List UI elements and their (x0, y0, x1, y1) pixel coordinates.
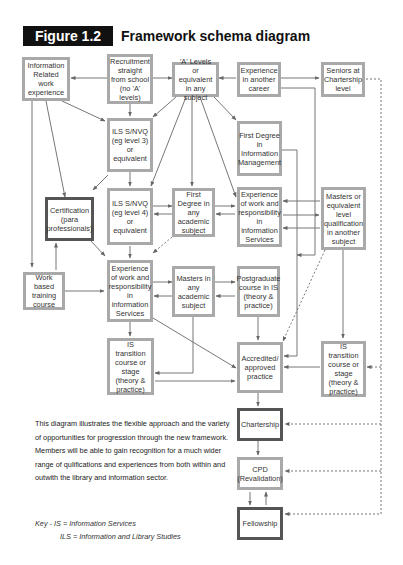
node-masters-any: Masters in any academic subject (172, 266, 215, 317)
node-experience-another-career: Experience in another career (237, 62, 281, 97)
node-info-related-work: Information Related work experience (22, 57, 70, 101)
node-a-levels: 'A' Levels or equivalent in any subject (172, 62, 219, 97)
node-chartership: Chartership (237, 408, 283, 441)
node-cpd-revalidation: CPD (Revalidation) (237, 457, 283, 490)
node-ils-level4: ILS S/NVQ (eg level 4) or equivalent (107, 188, 153, 245)
node-accredited-practice: Accredited/ approved practice (237, 342, 283, 393)
node-first-degree-any: First Degree in any academic subject (172, 188, 215, 237)
diagram-description: This diagram illustrates the flexible ap… (35, 417, 235, 485)
node-fellowship: Fellowship (237, 507, 283, 540)
key-ils: ILS = Information and Library Studies (60, 532, 181, 541)
node-certification: Certification (para professionals) (45, 197, 94, 241)
node-is-transition-left: IS transition course or stage (theory & … (107, 338, 154, 395)
node-masters-equivalent: Masters or equivalent level qualificatio… (321, 187, 366, 250)
node-experience-work-top: Experience of work and responsibility in… (237, 187, 282, 247)
node-postgrad-course: Postgraduate course in IS (theory & prac… (237, 266, 280, 317)
node-experience-work-mid: Experience of work and responsibility in… (107, 260, 153, 322)
node-recruitment-from-school: Recruitment straight from school (no 'A'… (107, 54, 153, 104)
node-ils-level3: ILS S/NVQ (eg level 3) or equivalent (107, 118, 153, 172)
node-is-transition-right: IS transition course or stage (theory & … (321, 341, 366, 397)
node-work-based-training: Work based training course (23, 272, 65, 310)
key-is: Key - IS = Information Services (35, 519, 136, 528)
node-seniors-chartership: Seniors at Chartership level (321, 62, 365, 97)
node-first-degree-im: First Degree in Information Management (237, 121, 282, 176)
